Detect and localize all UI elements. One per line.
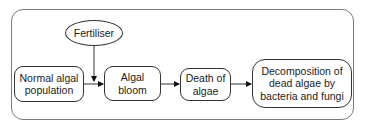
fertiliser-label: Fertiliser <box>74 27 114 39</box>
node-label: Decomposition of dead algae by bacteria … <box>256 65 348 103</box>
fertiliser-node: Fertiliser <box>65 20 123 46</box>
death-of-algae-node: Death of algae <box>180 68 231 101</box>
node-label: Normal algal population <box>19 72 79 97</box>
normal-algal-population-node: Normal algal population <box>14 66 84 102</box>
decomposition-node: Decomposition of dead algae by bacteria … <box>252 59 352 108</box>
node-label: Algal bloom <box>115 71 150 96</box>
node-label: Death of algae <box>184 72 227 97</box>
algal-bloom-node: Algal bloom <box>104 66 161 101</box>
